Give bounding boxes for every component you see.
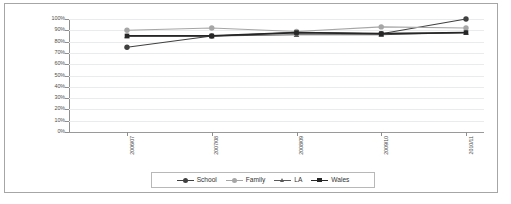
y-axis-tick-label: 60% [55, 61, 66, 66]
legend-item-school[interactable]: School [177, 176, 217, 184]
x-axis-tick-label: 2009/10 [384, 136, 389, 155]
legend-marker-icon [274, 176, 291, 184]
x-axis-tick-label: 2007/08 [214, 136, 219, 155]
legend-label: Family [246, 177, 265, 184]
x-axis-tick-label: 2006/07 [130, 136, 135, 155]
legend-marker-icon [177, 176, 194, 184]
y-axis-tick-label: 40% [55, 84, 66, 89]
y-axis-tick-label: 70% [55, 50, 66, 55]
data-point-marker [463, 16, 468, 21]
x-axis-labels: 2006/072007/082008/092009/102010/11 [69, 136, 484, 172]
gridline [69, 132, 484, 133]
y-axis-tick-label: 0% [57, 129, 65, 134]
y-axis-tick-label: 10% [55, 118, 66, 123]
plot-area [69, 19, 484, 132]
y-axis-tick-label: 100% [52, 16, 65, 21]
series-layer [69, 19, 484, 132]
data-point-marker [125, 34, 130, 39]
legend-marker-icon [226, 176, 243, 184]
data-point-marker [379, 31, 384, 36]
x-axis-tick-label: 2008/09 [299, 136, 304, 155]
chart-frame: 100%90%80%70%60%50%40%30%20%10%0% 2006/0… [4, 3, 498, 193]
x-axis-tick-label: 2010/11 [469, 136, 474, 154]
data-point-marker [124, 28, 129, 33]
y-axis-labels: 100%90%80%70%60%50%40%30%20%10%0% [27, 19, 65, 132]
legend-item-wales[interactable]: Wales [311, 176, 349, 184]
data-point-marker [209, 34, 214, 39]
data-point-marker [209, 25, 214, 30]
y-axis-tick-label: 90% [55, 28, 66, 33]
legend-label: School [197, 177, 217, 184]
y-axis-tick-label: 30% [55, 95, 66, 100]
data-point-marker [464, 30, 469, 35]
y-axis-tick-label: 20% [55, 107, 66, 112]
legend-item-family[interactable]: Family [226, 176, 265, 184]
data-point-marker [294, 30, 299, 35]
legend-marker-icon [311, 176, 328, 184]
legend-label: Wales [331, 177, 349, 184]
y-axis-tick-label: 50% [55, 73, 66, 78]
legend-item-la[interactable]: LA [274, 176, 302, 184]
y-tick-mark [65, 132, 69, 133]
y-axis-tick-label: 80% [55, 39, 66, 44]
legend-label: LA [294, 177, 302, 184]
data-point-marker [124, 45, 129, 50]
data-point-marker [379, 24, 384, 29]
chart-legend: SchoolFamilyLAWales [151, 172, 375, 188]
